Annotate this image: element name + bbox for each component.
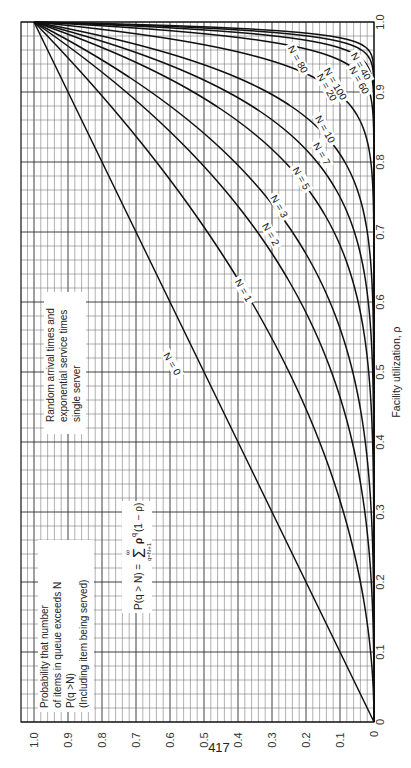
probability-tick-label: 0.6: [164, 732, 176, 747]
formula-upper: ∞: [124, 550, 131, 555]
rho-tick-label: 0.7: [374, 224, 386, 239]
curve-label-n-5: N = 5: [289, 163, 314, 194]
curve-label-n-0: N = 0: [160, 348, 185, 379]
rho-tick-label: 0.1: [374, 644, 386, 659]
formula-tail: (1 − ρ): [133, 503, 144, 532]
description-line-3: P(q >N): [65, 673, 76, 708]
probability-axis-ticks: 00.10.20.30.40.50.60.70.80.91.0: [28, 731, 380, 748]
probability-tick-label: 0.1: [334, 732, 346, 747]
curve-label-n-1: N = 1: [231, 275, 256, 306]
rho-axis-ticks: 00.10.20.30.40.50.60.70.80.91.0: [374, 14, 386, 725]
probability-tick-label: 0.3: [266, 732, 278, 747]
probability-tick-label: 0.8: [96, 732, 108, 747]
assumption-annotation: Random arrival times and exponential ser…: [44, 292, 86, 434]
assumption-line-2: exponential service times: [58, 310, 69, 422]
probability-tick-label: 0: [368, 731, 380, 737]
curve-label-n-2: N = 2: [259, 219, 284, 250]
probability-tick-label: 1.0: [28, 732, 40, 747]
formula-rho: ρ: [133, 538, 144, 544]
rho-tick-label: 0.6: [374, 294, 386, 309]
description-line-1: Probability that number: [39, 604, 50, 708]
x-axis-title: Facility utilization, ρ: [390, 326, 402, 417]
queue-probability-chart: N = 0N = 1N = 2N = 3N = 5N = 7N = 10N = …: [0, 0, 411, 768]
probability-tick-label: 0.2: [300, 732, 312, 747]
assumption-line-1: Random arrival times and: [45, 308, 56, 422]
rho-tick-label: 0.3: [374, 504, 386, 519]
curve-label-n-80: N = 80: [284, 41, 311, 77]
curve-label-n-3: N = 3: [267, 191, 292, 222]
description-line-4: (Including item being served): [78, 580, 89, 708]
probability-tick-label: 0.4: [232, 732, 244, 747]
rho-tick-label: 0.2: [374, 574, 386, 589]
probability-tick-label: 0.9: [62, 732, 74, 747]
formula-lower: q=N+1: [146, 542, 152, 561]
description-annotation: Probability that number of items in queu…: [38, 540, 94, 712]
rho-tick-label: 0.5: [374, 364, 386, 379]
rho-tick-label: 0.9: [374, 84, 386, 99]
rho-tick-label: 0.8: [374, 154, 386, 169]
rho-tick-label: 1.0: [374, 14, 386, 29]
page-number: 417: [208, 740, 230, 755]
formula-exp: q: [130, 533, 138, 537]
rho-tick-label: 0: [374, 719, 386, 725]
probability-tick-label: 0.7: [130, 732, 142, 747]
assumption-line-3: single server: [71, 365, 82, 422]
rho-tick-label: 0.4: [374, 434, 386, 449]
description-line-2: of items in queue exceeds N: [52, 582, 63, 708]
formula-lhs: P(q > N) =: [133, 564, 144, 610]
formula-annotation: P(q > N) = Σ ∞ q=N+1 ρ q (1 − ρ): [122, 501, 152, 613]
